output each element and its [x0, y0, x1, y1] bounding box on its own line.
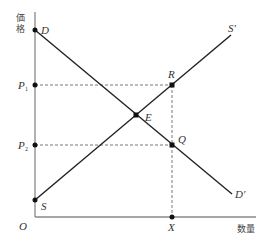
point-x — [170, 215, 175, 220]
point-d — [33, 28, 38, 33]
label-x: X — [167, 221, 176, 233]
y-axis-label-char-1: 価 — [16, 12, 25, 23]
label-d: D — [40, 24, 49, 36]
label-e: E — [144, 111, 152, 123]
label-p2-sub: 2 — [25, 146, 28, 152]
label-s-prime: S′ — [228, 22, 237, 34]
point-p2 — [33, 143, 38, 148]
y-axis-label-char-2: 格 — [16, 23, 25, 34]
label-p2: P — [17, 139, 25, 151]
label-p1: P — [17, 79, 25, 91]
demand-curve — [35, 30, 232, 194]
supply-curve — [35, 35, 231, 200]
label-q: Q — [178, 133, 186, 145]
point-p1 — [33, 83, 38, 88]
label-p1-sub: 1 — [25, 86, 28, 92]
label-origin: O — [19, 220, 27, 232]
point-e — [134, 113, 139, 118]
x-axis-label: 数量 — [237, 223, 255, 234]
point-r — [170, 83, 175, 88]
label-s: S — [41, 200, 47, 212]
point-s — [33, 198, 38, 203]
label-r: R — [167, 68, 175, 80]
point-q — [170, 143, 175, 148]
supply-demand-diagram: 価 格 数量 D D′ S S′ O E R Q X P 1 P 2 — [0, 0, 270, 245]
label-d-prime: D′ — [234, 188, 246, 200]
